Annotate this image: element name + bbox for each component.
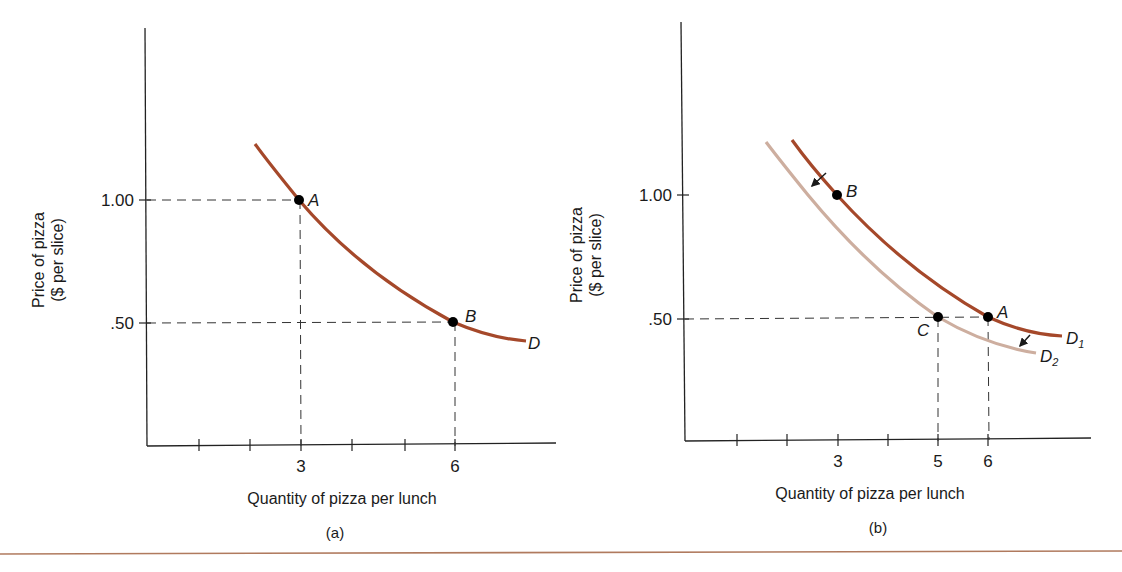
shift-arrow-icon bbox=[1020, 335, 1030, 346]
x-tick-label-6: 6 bbox=[450, 457, 459, 476]
panel-a: A B D 1.00 .50 3 6 Quantity of pizza per… bbox=[30, 28, 556, 541]
y-tick-label-050: .50 bbox=[648, 310, 672, 329]
y-tick-label-1: 1.00 bbox=[639, 186, 672, 205]
x-tick-label-3: 3 bbox=[833, 452, 842, 471]
figure: A B D 1.00 .50 3 6 Quantity of pizza per… bbox=[0, 0, 1122, 572]
y-axis bbox=[145, 28, 147, 446]
guide-lines bbox=[147, 200, 455, 446]
demand-curve-d bbox=[255, 144, 526, 341]
y-axis bbox=[681, 22, 685, 441]
x-tick-label-5: 5 bbox=[933, 452, 942, 471]
demand-curve-d1 bbox=[792, 140, 1062, 336]
y-tick-label-1: 1.00 bbox=[101, 191, 134, 210]
point-b bbox=[832, 190, 842, 200]
bottom-rule bbox=[0, 551, 1122, 554]
curve-d2-label: D2 bbox=[1040, 347, 1058, 368]
x-axis-title: Quantity of pizza per lunch bbox=[775, 485, 964, 502]
x-tick-label-3: 3 bbox=[296, 457, 305, 476]
panel-caption: (b) bbox=[869, 519, 887, 536]
panel-caption: (a) bbox=[326, 524, 344, 541]
y-axis-title-line2: ($ per slice) bbox=[49, 218, 66, 302]
point-c-label: C bbox=[917, 321, 930, 340]
y-tick-label-050: .50 bbox=[110, 314, 134, 333]
point-c bbox=[933, 312, 943, 322]
y-ticks bbox=[139, 200, 151, 323]
guide-lines bbox=[685, 317, 989, 441]
point-a-label: A bbox=[307, 191, 319, 210]
point-a bbox=[983, 312, 993, 322]
y-axis-title-line2: ($ per slice) bbox=[587, 213, 604, 297]
point-b-label: B bbox=[465, 307, 476, 326]
panel-b: B C A D1 D2 1.00 .50 3 5 6 Quantity of p… bbox=[568, 22, 1091, 536]
point-b-label: B bbox=[846, 182, 857, 201]
x-tick-label-6: 6 bbox=[983, 452, 992, 471]
point-a-label: A bbox=[996, 303, 1008, 322]
point-b bbox=[448, 317, 458, 327]
x-axis-title: Quantity of pizza per lunch bbox=[247, 490, 436, 507]
point-a bbox=[294, 195, 304, 205]
curve-d1-label: D1 bbox=[1066, 329, 1084, 350]
y-axis-title-line1: Price of pizza bbox=[30, 212, 47, 308]
curve-d-label: D bbox=[528, 334, 540, 353]
y-axis-title-line1: Price of pizza bbox=[568, 207, 585, 303]
